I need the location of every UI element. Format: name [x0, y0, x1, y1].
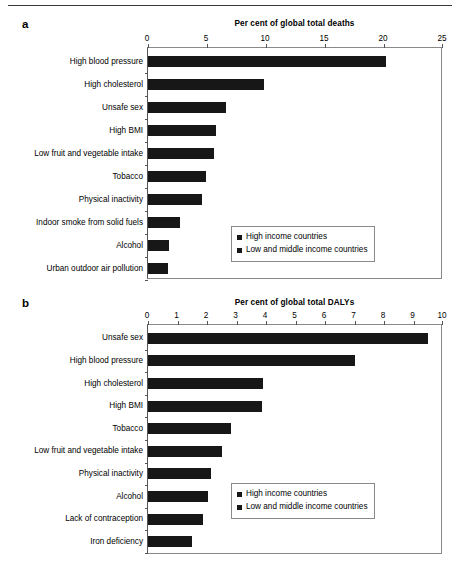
ytick-mark — [145, 553, 148, 554]
category-label: High blood pressure — [70, 56, 143, 65]
ytick-mark — [145, 119, 148, 120]
category-label: Iron deficiency — [90, 536, 143, 545]
xtick-label: 15 — [319, 34, 328, 43]
ytick-mark — [145, 234, 148, 235]
bar — [148, 355, 355, 366]
xtick-mark — [148, 321, 149, 325]
xtick-mark — [178, 321, 179, 325]
panel-b-plot-area: High income countriesLow and middle inco… — [147, 324, 442, 554]
category-label: Unsafe sex — [102, 333, 143, 342]
xtick-mark — [325, 44, 326, 48]
panel-b-axis-title: Per cent of global total DALYs — [147, 298, 442, 307]
category-label: Tobacco — [113, 423, 144, 432]
figure-page: a Per cent of global total deaths 051015… — [0, 0, 458, 565]
xtick-label: 0 — [145, 34, 150, 43]
xtick-label: 9 — [410, 311, 415, 320]
xtick-label: 5 — [292, 311, 297, 320]
bar — [148, 148, 214, 160]
bar — [148, 446, 222, 457]
legend-swatch-icon — [237, 235, 242, 240]
xtick-label: 5 — [204, 34, 209, 43]
category-label: Physical inactivity — [79, 468, 143, 477]
category-label: High blood pressure — [70, 355, 143, 364]
bar — [148, 125, 216, 137]
xtick-mark — [384, 44, 385, 48]
legend-row: High income countries — [237, 488, 368, 501]
bar — [148, 423, 231, 434]
legend-label: Low and middle income countries — [246, 246, 368, 254]
ytick-mark — [145, 350, 148, 351]
xtick-mark — [266, 44, 267, 48]
legend-label: High income countries — [246, 233, 327, 241]
bar — [148, 491, 208, 502]
bar — [148, 263, 168, 275]
xtick-mark — [384, 321, 385, 325]
bar — [148, 171, 206, 183]
ytick-mark — [145, 440, 148, 441]
legend-swatch-icon — [237, 492, 242, 497]
ytick-mark — [145, 96, 148, 97]
category-label: High cholesterol — [84, 378, 143, 387]
xtick-mark — [355, 321, 356, 325]
xtick-mark — [266, 321, 267, 325]
xtick-mark — [442, 44, 443, 48]
panel-a-plot-area: High income countriesLow and middle inco… — [147, 47, 442, 279]
xtick-mark — [237, 321, 238, 325]
ytick-mark — [145, 165, 148, 166]
xtick-label: 0 — [145, 311, 150, 320]
bar — [148, 514, 203, 525]
xtick-label: 1 — [174, 311, 179, 320]
category-label: Alcohol — [116, 240, 143, 249]
xtick-label: 8 — [381, 311, 386, 320]
legend-label: High income countries — [246, 490, 327, 498]
xtick-label: 4 — [263, 311, 268, 320]
bar — [148, 102, 226, 114]
legend-row: High income countries — [237, 231, 368, 244]
panel-a-legend: High income countriesLow and middle inco… — [231, 226, 375, 262]
bar — [148, 378, 263, 389]
panel-b-letter: b — [22, 297, 29, 309]
panel-b-legend: High income countriesLow and middle inco… — [231, 483, 375, 519]
xtick-label: 6 — [322, 311, 327, 320]
ytick-mark — [145, 463, 148, 464]
panel-a-letter: a — [22, 18, 28, 30]
xtick-label: 25 — [437, 34, 446, 43]
ytick-mark — [145, 395, 148, 396]
xtick-mark — [414, 321, 415, 325]
xtick-mark — [207, 44, 208, 48]
bar — [148, 217, 180, 229]
category-label: Urban outdoor air pollution — [47, 263, 144, 272]
category-label: Alcohol — [116, 491, 143, 500]
ytick-mark — [145, 257, 148, 258]
category-label: Indoor smoke from solid fuels — [36, 217, 143, 226]
bar — [148, 401, 262, 412]
bar — [148, 468, 211, 479]
xtick-label: 10 — [260, 34, 269, 43]
xtick-label: 10 — [437, 311, 446, 320]
xtick-mark — [296, 321, 297, 325]
ytick-mark — [145, 530, 148, 531]
legend-label: Low and middle income countries — [246, 503, 368, 511]
panel-a-xtick-labels: 0510152025 — [147, 34, 442, 45]
ytick-mark — [145, 417, 148, 418]
bar — [148, 194, 202, 206]
xtick-mark — [442, 321, 443, 325]
ytick-mark — [145, 73, 148, 74]
category-label: High cholesterol — [84, 79, 143, 88]
ytick-mark — [145, 188, 148, 189]
category-label: Unsafe sex — [102, 102, 143, 111]
bar — [148, 56, 386, 68]
xtick-label: 3 — [233, 311, 238, 320]
xtick-mark — [207, 321, 208, 325]
ytick-mark — [145, 508, 148, 509]
ytick-mark — [145, 485, 148, 486]
xtick-label: 2 — [204, 311, 209, 320]
bar — [148, 333, 428, 344]
ytick-mark — [145, 211, 148, 212]
ytick-mark — [145, 142, 148, 143]
xtick-label: 7 — [351, 311, 356, 320]
xtick-mark — [325, 321, 326, 325]
category-label: Low fruit and vegetable intake — [34, 446, 143, 455]
legend-row: Low and middle income countries — [237, 501, 368, 514]
bar — [148, 240, 169, 252]
